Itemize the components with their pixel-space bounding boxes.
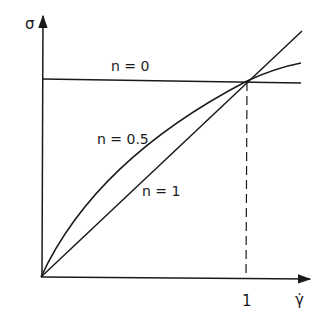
curve-n05 bbox=[41, 63, 301, 277]
x-axis bbox=[41, 277, 310, 279]
y-axis bbox=[42, 16, 43, 277]
x-axis-label: γ̇ bbox=[295, 293, 304, 308]
curve-label-n0: n = 0 bbox=[111, 59, 149, 73]
curve-label-n05: n = 0.5 bbox=[97, 132, 149, 146]
y-axis-label: σ bbox=[25, 17, 35, 32]
curve-n0 bbox=[43, 79, 301, 83]
curve-n1 bbox=[41, 31, 302, 277]
curve-label-n1: n = 1 bbox=[142, 184, 180, 198]
flow-curve-diagram bbox=[0, 0, 336, 326]
x-tick-label-1: 1 bbox=[242, 294, 252, 309]
reference-line bbox=[246, 82, 247, 279]
